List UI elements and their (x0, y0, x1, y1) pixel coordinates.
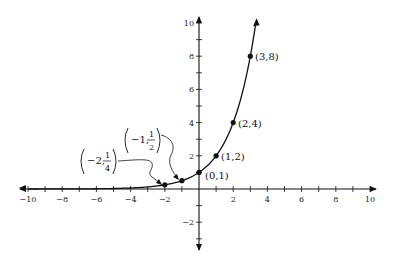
axis-ticks: −10−8−6−4−2246810−2246810 (20, 19, 376, 239)
annotation-neg2-quarter: −2, 1 4 (81, 149, 162, 185)
y-axis-down-arrow-icon (196, 244, 202, 251)
curve-arrow-icon (253, 18, 260, 26)
data-point (248, 54, 253, 59)
y-axis-up-arrow-icon (196, 16, 202, 23)
fraction-denominator: 4 (105, 164, 110, 173)
x-tick-label: 10 (365, 195, 375, 204)
data-point (179, 178, 184, 183)
data-point (162, 182, 167, 187)
data-point (214, 153, 219, 158)
curve-path (28, 26, 255, 189)
y-tick-label: 6 (189, 85, 194, 94)
point-label-1-2: (1,2) (221, 151, 245, 162)
data-point (196, 170, 201, 175)
x-tick-label: −2 (159, 195, 171, 204)
point-label-3-8: (3,8) (255, 51, 279, 62)
x-tick-label: −4 (125, 195, 137, 204)
annotation-x-value: −1, (131, 134, 149, 145)
x-axis-right-arrow-icon (370, 186, 377, 192)
annotation-x-value: −2, (87, 155, 105, 166)
fraction-numerator: 1 (105, 151, 110, 160)
x-tick-label: 4 (265, 195, 270, 204)
exponential-graph: −10−8−6−4−2246810−2246810 (0,1) (1,2) (2… (0, 0, 396, 262)
y-tick-label: 8 (189, 52, 194, 61)
left-paren (125, 128, 128, 153)
y-tick-label: 2 (189, 152, 194, 161)
annotation-arrow (161, 135, 176, 176)
fraction-numerator: 1 (149, 130, 154, 139)
x-tick-label: −6 (91, 195, 103, 204)
annotation-neg1-half: −1, 1 2 (125, 128, 179, 180)
y-tick-label: 4 (189, 119, 194, 128)
y-tick-label: −2 (182, 218, 194, 227)
arrowhead-icon (173, 174, 179, 180)
x-tick-label: −8 (56, 195, 68, 204)
fraction-denominator: 2 (149, 143, 154, 152)
x-tick-label: −10 (20, 195, 37, 204)
exponential-curve (19, 18, 260, 191)
point-label-2-4: (2,4) (238, 118, 262, 129)
data-point (231, 120, 236, 125)
x-tick-label: 6 (299, 195, 304, 204)
right-paren (157, 128, 160, 153)
arrowhead-icon (156, 179, 162, 185)
x-tick-label: 8 (333, 195, 338, 204)
point-label-0-1: (0,1) (205, 170, 229, 181)
right-paren (113, 149, 116, 174)
annotation-arrow (118, 160, 160, 183)
x-tick-label: 2 (231, 195, 236, 204)
left-paren (81, 149, 84, 174)
y-tick-label: 10 (184, 19, 194, 28)
axes (19, 16, 377, 251)
